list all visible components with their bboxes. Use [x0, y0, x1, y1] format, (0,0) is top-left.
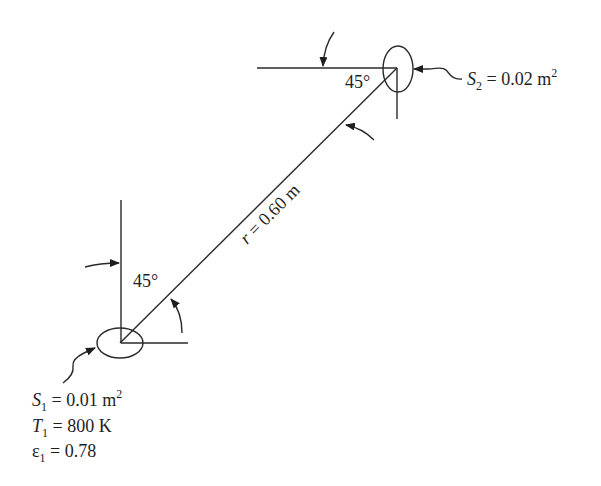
surface-2-ellipse [383, 46, 413, 92]
surface-2-area-label: S2 = 0.02 m2 [467, 66, 557, 93]
surface-1-emissivity-label: ε1 = 0.78 [32, 441, 96, 465]
surface-2: 45° S2 = 0.02 m2 [257, 32, 557, 140]
angle-arrow-icon [323, 32, 334, 66]
angle-arrow-icon [346, 125, 374, 140]
angle-arrow-icon [171, 299, 182, 333]
radiation-geometry-diagram: 45° S2 = 0.02 m2 45° S1 = 0.01 m2 T1 = 8… [0, 0, 601, 486]
angle-label-bottom: 45° [133, 271, 158, 291]
surface-1-area-label: S1 = 0.01 m2 [32, 387, 122, 414]
angle-label-top: 45° [345, 72, 370, 92]
leader-arrow-icon [414, 68, 462, 79]
angle-arrow-icon [85, 263, 119, 267]
distance-line [120, 68, 397, 343]
surface-1-temperature-label: T1 = 800 K [32, 416, 112, 440]
distance-label: r = 0.60 m [236, 180, 304, 248]
surface-1: 45° S1 = 0.01 m2 T1 = 800 K ε1 = 0.78 [32, 200, 188, 465]
leader-arrow-icon [63, 348, 95, 383]
